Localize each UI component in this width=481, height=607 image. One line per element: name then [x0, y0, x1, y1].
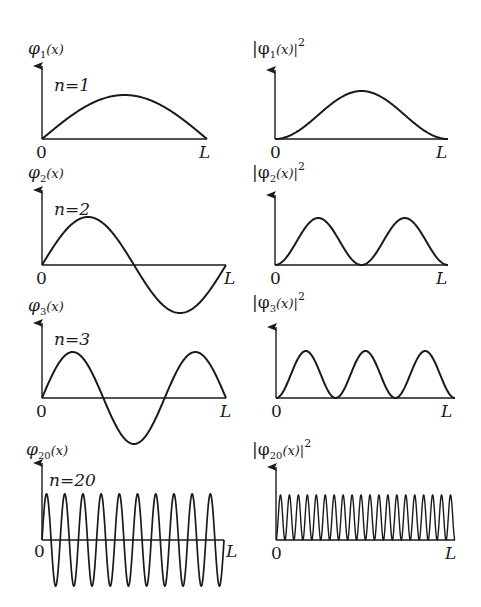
prob20-label: |φ20(x)|2 [252, 437, 311, 461]
end-label: L [225, 541, 237, 561]
psi3-label: φ3(x) [28, 295, 64, 317]
panel-n3-probability: |φ3(x)|2 0 L [252, 290, 455, 421]
origin-label: 0 [36, 401, 47, 421]
psi2-label: φ2(x) [28, 162, 64, 184]
particle-in-box-figure: φ1(x) n=1 0 L |φ1(x)|2 0 L φ2(x) n=2 0 L… [0, 0, 481, 607]
origin-label: 0 [271, 543, 282, 563]
prob3-label: |φ3(x)|2 [252, 290, 305, 314]
origin-label: 0 [271, 401, 282, 421]
end-label: L [223, 268, 235, 288]
end-label: L [198, 142, 210, 162]
psi1-curve [42, 95, 207, 139]
prob1-label: |φ1(x)|2 [252, 36, 305, 60]
n-label: n=1 [54, 75, 90, 95]
prob2-curve [275, 218, 448, 265]
panel-n2-wavefunction: φ2(x) n=2 0 L [28, 162, 235, 313]
n-label: n=3 [54, 329, 90, 349]
origin-label: 0 [34, 541, 45, 561]
psi20-curve [42, 494, 224, 586]
origin-label: 0 [36, 142, 47, 162]
end-label: L [444, 543, 456, 563]
origin-label: 0 [270, 142, 281, 162]
panel-n1-probability: |φ1(x)|2 0 L [252, 36, 448, 162]
panel-n20-wavefunction: φ20(x) n=20 0 L [26, 439, 237, 586]
panel-n20-probability: |φ20(x)|2 0 L [252, 437, 456, 563]
n-label: n=2 [54, 199, 90, 219]
psi20-label: φ20(x) [26, 439, 68, 461]
origin-label: 0 [270, 268, 281, 288]
psi1-label: φ1(x) [28, 38, 64, 60]
n-label: n=20 [49, 470, 96, 490]
panel-n3-wavefunction: φ3(x) n=3 0 L [28, 295, 231, 444]
prob1-curve [275, 91, 448, 139]
end-label: L [435, 268, 447, 288]
origin-label: 0 [36, 268, 47, 288]
prob2-label: |φ2(x)|2 [252, 160, 305, 184]
panel-n1-wavefunction: φ1(x) n=1 0 L [28, 38, 210, 162]
end-label: L [440, 401, 452, 421]
panel-n2-probability: |φ2(x)|2 0 L [252, 160, 448, 288]
end-label: L [219, 401, 231, 421]
prob20-curve [276, 495, 455, 540]
end-label: L [435, 142, 447, 162]
prob3-curve [276, 351, 455, 398]
